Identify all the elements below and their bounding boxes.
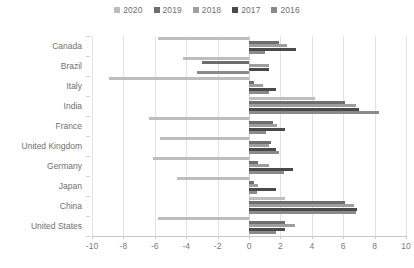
bar-france-2018[interactable]	[249, 124, 277, 127]
legend-item-2019[interactable]: 2019	[154, 6, 182, 15]
bar-united-kingdom-2019[interactable]	[249, 141, 271, 144]
x-tick-label: 6	[328, 242, 358, 251]
bar-india-2016[interactable]	[249, 111, 379, 114]
category-tick	[86, 236, 90, 237]
x-tick	[249, 236, 250, 239]
legend-swatch-icon	[271, 7, 277, 13]
category-label-brazil: Brazil	[61, 62, 82, 71]
grid-line	[218, 36, 219, 236]
bar-brazil-2016[interactable]	[197, 71, 249, 74]
bar-united-states-2017[interactable]	[249, 228, 285, 231]
bar-japan-2019[interactable]	[249, 181, 254, 184]
bar-brazil-2017[interactable]	[249, 68, 269, 71]
category-tick	[86, 56, 90, 57]
category-tick	[86, 116, 90, 117]
bar-canada-2018[interactable]	[249, 44, 287, 47]
x-tick-label: -8	[108, 242, 138, 251]
bar-china-2020[interactable]	[249, 197, 285, 200]
bar-france-2019[interactable]	[249, 121, 273, 124]
bar-germany-2020[interactable]	[153, 157, 249, 160]
category-label-italy: Italy	[66, 82, 82, 91]
category-tick	[86, 76, 90, 77]
bar-united-states-2019[interactable]	[249, 221, 285, 224]
bar-united-kingdom-2018[interactable]	[249, 144, 269, 147]
bar-united-kingdom-2020[interactable]	[160, 137, 249, 140]
bar-india-2020[interactable]	[249, 97, 315, 100]
bar-france-2017[interactable]	[249, 128, 285, 131]
bar-canada-2016[interactable]	[249, 51, 265, 54]
bar-italy-2018[interactable]	[249, 84, 263, 87]
bar-italy-2016[interactable]	[249, 91, 269, 94]
legend-label: 2020	[123, 6, 142, 15]
bar-india-2018[interactable]	[249, 104, 356, 107]
bar-japan-2017[interactable]	[249, 188, 276, 191]
grid-line	[92, 36, 93, 236]
category-label-united-states: United States	[31, 222, 82, 231]
bar-japan-2016[interactable]	[249, 191, 257, 194]
bar-canada-2019[interactable]	[249, 41, 279, 44]
x-tick-label: 8	[360, 242, 390, 251]
bar-india-2017[interactable]	[249, 108, 359, 111]
plot-area	[92, 36, 406, 236]
bar-united-states-2020[interactable]	[158, 217, 249, 220]
category-tick	[86, 96, 90, 97]
x-tick	[280, 236, 281, 239]
bar-germany-2016[interactable]	[249, 171, 284, 174]
legend-item-2017[interactable]: 2017	[232, 6, 260, 15]
bar-china-2018[interactable]	[249, 204, 354, 207]
x-tick	[155, 236, 156, 239]
grid-line	[155, 36, 156, 236]
bar-france-2016[interactable]	[249, 131, 266, 134]
x-tick-label: 10	[391, 242, 414, 251]
category-tick	[86, 136, 90, 137]
legend-item-2020[interactable]: 2020	[114, 6, 142, 15]
category-tick	[86, 216, 90, 217]
bar-japan-2018[interactable]	[249, 184, 258, 187]
x-tick	[218, 236, 219, 239]
legend-item-2016[interactable]: 2016	[271, 6, 299, 15]
x-tick-label: -4	[171, 242, 201, 251]
legend-label: 2019	[163, 6, 182, 15]
bar-italy-2019[interactable]	[249, 81, 254, 84]
x-tick	[406, 236, 407, 239]
category-label-germany: Germany	[47, 162, 82, 171]
x-tick	[123, 236, 124, 239]
x-tick-label: 2	[265, 242, 295, 251]
bar-france-2020[interactable]	[149, 117, 249, 120]
category-axis-labels: CanadaBrazilItalyIndiaFranceUnited Kingd…	[0, 36, 86, 236]
category-label-china: China	[60, 202, 82, 211]
legend-swatch-icon	[232, 7, 238, 13]
bar-brazil-2019[interactable]	[202, 61, 249, 64]
x-tick-label: 0	[234, 242, 264, 251]
bar-italy-2020[interactable]	[109, 77, 249, 80]
bar-united-states-2016[interactable]	[249, 231, 276, 234]
bar-india-2019[interactable]	[249, 101, 345, 104]
bar-germany-2019[interactable]	[249, 161, 258, 164]
bar-italy-2017[interactable]	[249, 88, 276, 91]
grid-line	[406, 36, 407, 236]
legend-label: 2018	[202, 6, 221, 15]
bar-brazil-2020[interactable]	[183, 57, 249, 60]
bar-united-kingdom-2017[interactable]	[249, 148, 276, 151]
bar-united-states-2018[interactable]	[249, 224, 295, 227]
category-label-france: France	[56, 122, 82, 131]
bar-germany-2017[interactable]	[249, 168, 293, 171]
legend-swatch-icon	[154, 7, 160, 13]
bar-china-2017[interactable]	[249, 208, 357, 211]
bar-japan-2020[interactable]	[177, 177, 249, 180]
bar-united-kingdom-2016[interactable]	[249, 151, 279, 154]
category-tick	[86, 196, 90, 197]
bar-canada-2020[interactable]	[158, 37, 249, 40]
x-tick-label: -6	[140, 242, 170, 251]
bar-germany-2018[interactable]	[249, 164, 269, 167]
bar-brazil-2018[interactable]	[249, 64, 269, 67]
legend-item-2018[interactable]: 2018	[193, 6, 221, 15]
legend-label: 2017	[241, 6, 260, 15]
bar-canada-2017[interactable]	[249, 48, 296, 51]
bar-china-2019[interactable]	[249, 201, 345, 204]
category-label-united-kingdom: United Kingdom	[22, 142, 82, 151]
bar-china-2016[interactable]	[249, 211, 356, 214]
bar-chart: 20202019201820172016 CanadaBrazilItalyIn…	[0, 0, 414, 268]
x-tick-label: -10	[77, 242, 107, 251]
category-label-japan: Japan	[59, 182, 82, 191]
